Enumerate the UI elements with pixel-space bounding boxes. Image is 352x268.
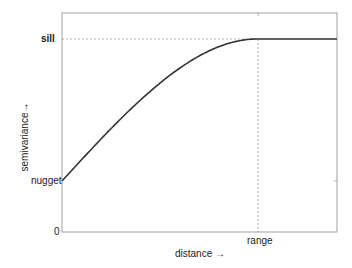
range-label: range <box>247 236 273 246</box>
y-axis-label: semivariance→ <box>20 92 30 182</box>
x-axis-label: distance → <box>175 249 225 259</box>
nugget-label: nugget <box>31 176 62 186</box>
plot-frame <box>62 13 337 232</box>
sill-label: sill <box>41 34 55 44</box>
variogram-curve <box>62 39 337 181</box>
zero-label: 0 <box>54 227 60 237</box>
